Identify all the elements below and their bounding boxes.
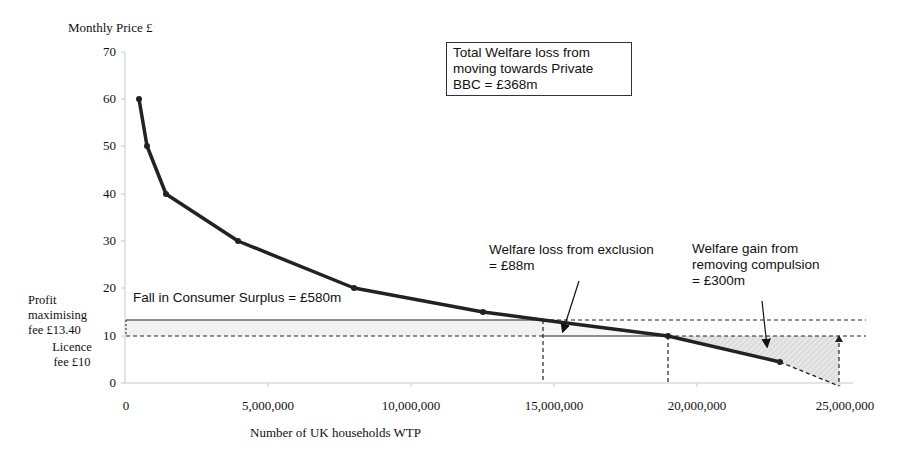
x-tick-label: 25,000,000 xyxy=(816,398,875,414)
profit-max-fee-label: Profit maximising fee £13.40 xyxy=(28,293,100,338)
y-tick-label: 60 xyxy=(86,91,116,107)
y-tick-label: 70 xyxy=(86,44,116,60)
exclusion-line: = £88m xyxy=(489,258,654,274)
licence-fee-label: Licence fee £10 xyxy=(42,340,102,370)
exclusion-line: Welfare loss from exclusion xyxy=(489,242,654,258)
x-tick-label: 0 xyxy=(123,398,130,414)
consumer-surplus-area xyxy=(126,320,543,336)
y-axis-ticks xyxy=(121,52,125,383)
total-box-line: Total Welfare loss from xyxy=(453,45,625,61)
compulsion-line: Welfare gain from xyxy=(692,241,820,257)
x-tick-label: 5,000,000 xyxy=(242,398,294,414)
x-tick-label: 10,000,000 xyxy=(382,398,441,414)
x-axis-ticks xyxy=(268,383,840,387)
y-axis-title: Monthly Price £ xyxy=(68,20,153,36)
x-tick-label: 15,000,000 xyxy=(525,398,584,414)
licence-label-line: Licence xyxy=(42,340,102,355)
y-tick-label: 0 xyxy=(86,375,116,391)
profit-label-line: Profit xyxy=(28,293,100,308)
y-tick-label: 30 xyxy=(86,233,116,249)
consumer-surplus-annotation: Fall in Consumer Surplus = £580m xyxy=(133,290,341,305)
profit-label-line: maximising xyxy=(28,308,100,323)
profit-label-line: fee £13.40 xyxy=(28,323,100,338)
compulsion-line: = £300m xyxy=(692,273,820,289)
y-tick-label: 40 xyxy=(86,186,116,202)
compulsion-line: removing compulsion xyxy=(692,257,820,273)
y-tick-label: 50 xyxy=(86,138,116,154)
x-tick-label: 20,000,000 xyxy=(668,398,727,414)
total-box-line: BBC = £368m xyxy=(453,77,625,93)
total-welfare-loss-box: Total Welfare loss from moving towards P… xyxy=(446,42,632,96)
x-axis-title: Number of UK households WTP xyxy=(250,425,421,441)
licence-label-line: fee £10 xyxy=(42,355,102,370)
total-box-line: moving towards Private xyxy=(453,61,625,77)
compulsion-annotation: Welfare gain from removing compulsion = … xyxy=(692,241,820,289)
exclusion-annotation: Welfare loss from exclusion = £88m xyxy=(489,242,654,274)
